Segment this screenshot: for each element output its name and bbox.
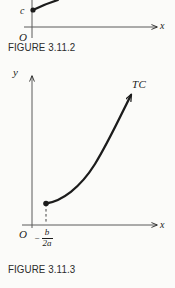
y-axis-label-bottom: y (13, 66, 18, 78)
intercept-dot-top (30, 7, 35, 12)
figure-panel: c x O FIGURE 3.11.2 y TC x O − b 2a FIGU… (0, 0, 175, 288)
fraction-denominator: 2a (42, 239, 53, 249)
curve-tc (46, 95, 131, 204)
intercept-label-c: c (20, 5, 24, 16)
fraction-minus-sign: − (34, 234, 40, 243)
fraction-numerator: b (44, 228, 51, 238)
figure-3-11-2-graphic (24, 0, 157, 38)
figure-3-11-3-graphic (22, 76, 157, 228)
origin-label-bottom: O (19, 228, 27, 240)
x-axis-label-bottom: x (160, 219, 164, 230)
figure-caption-3-11-2: FIGURE 3.11.2 (8, 41, 75, 53)
figure-caption-3-11-3: FIGURE 3.11.3 (8, 263, 75, 275)
curve-top (33, 0, 58, 10)
x-axis-label-top: x (160, 20, 164, 31)
x-tick-label-fraction: − b 2a (34, 228, 53, 248)
vertex-dot-bottom (43, 201, 49, 207)
curve-label-tc: TC (132, 78, 146, 90)
fraction-stack: b 2a (42, 228, 53, 248)
